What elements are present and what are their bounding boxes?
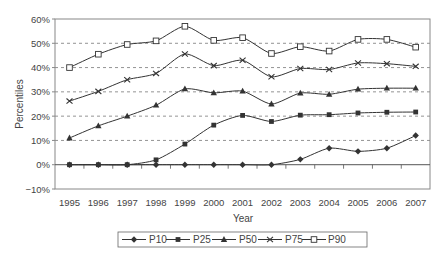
square-marker-icon [413,110,418,115]
square-marker-icon [327,112,332,117]
x-tick-label: 1997 [117,197,138,208]
y-tick-label: 60% [31,14,51,25]
legend: P10P25P50P75P90 [118,232,367,247]
open-square-marker-icon [124,42,130,48]
diamond-marker-icon [297,156,303,162]
series-p90 [67,23,419,70]
diamond-marker-icon [384,145,390,151]
y-tick-label: 40% [31,62,51,73]
square-marker-icon [125,162,130,167]
open-square-marker-icon [384,37,390,43]
series-line [70,112,416,165]
square-marker-icon [269,119,274,124]
series-p75 [67,51,419,103]
y-tick-label: 50% [31,38,51,49]
open-square-marker-icon [298,44,304,50]
open-square-marker-icon [269,51,275,57]
percentiles-line-chart: −10%0%10%20%30%40%50%60% 199519961997199… [0,0,444,262]
x-marker-icon [95,89,101,94]
x-tick-label: 2000 [203,197,224,208]
legend-label: P10 [149,234,167,245]
diamond-marker-icon [326,145,332,151]
x-marker-icon [124,77,130,82]
open-square-marker-icon [355,37,361,43]
square-marker-icon [240,113,245,118]
open-square-marker-icon [67,65,73,71]
square-marker-icon [176,237,181,242]
y-axis-title: Percentiles [14,79,25,128]
diamond-marker-icon [182,162,188,168]
open-square-marker-icon [240,35,246,41]
square-marker-icon [183,142,188,147]
square-marker-icon [211,123,216,128]
legend-label: P90 [328,234,346,245]
x-tick-label: 2006 [376,197,397,208]
legend-label: P25 [193,234,211,245]
x-tick-label: 1996 [88,197,109,208]
x-tick-label: 2005 [347,197,368,208]
open-square-marker-icon [96,51,102,57]
series-line [70,136,416,165]
x-tick-label: 2002 [261,197,282,208]
series-line [70,26,416,67]
open-square-marker-icon [153,38,159,44]
square-marker-icon [356,111,361,116]
square-marker-icon [96,162,101,167]
x-tick-label: 1995 [59,197,80,208]
square-marker-icon [154,157,159,162]
open-square-marker-icon [182,23,188,29]
diamond-marker-icon [211,162,217,168]
x-tick-label: 1999 [174,197,195,208]
diamond-marker-icon [355,148,361,154]
legend-label: P75 [285,234,303,245]
legend-label: P50 [239,234,257,245]
x-axis-tick-labels: 1995199619971998199920002001200220032004… [59,197,426,208]
open-square-marker-icon [326,48,332,54]
open-square-marker-icon [413,44,419,50]
diamond-marker-icon [268,162,274,168]
square-marker-icon [384,110,389,115]
diamond-marker-icon [413,132,419,138]
open-square-marker-icon [311,237,317,243]
open-square-marker-icon [211,38,217,44]
y-tick-label: 10% [31,135,51,146]
square-marker-icon [298,113,303,118]
y-tick-label: 30% [31,86,51,97]
y-tick-label: 20% [31,111,51,122]
series-lines [66,23,419,167]
triangle-marker-icon [153,102,159,108]
y-axis-tick-labels: −10%0%10%20%30%40%50%60% [25,14,50,195]
x-tick-label: 2007 [405,197,426,208]
square-marker-icon [67,162,72,167]
diamond-marker-icon [239,162,245,168]
x-tick-label: 2001 [232,197,253,208]
series-p10 [66,132,419,168]
x-axis-title: Year [233,213,254,224]
x-tick-label: 1998 [145,197,166,208]
y-tick-label: 0% [36,159,50,170]
x-tick-label: 2004 [319,197,340,208]
x-tick-label: 2003 [290,197,311,208]
x-marker-icon [153,71,159,76]
y-tick-label: −10% [25,184,50,195]
x-marker-icon [67,98,73,103]
diamond-marker-icon [153,162,159,168]
